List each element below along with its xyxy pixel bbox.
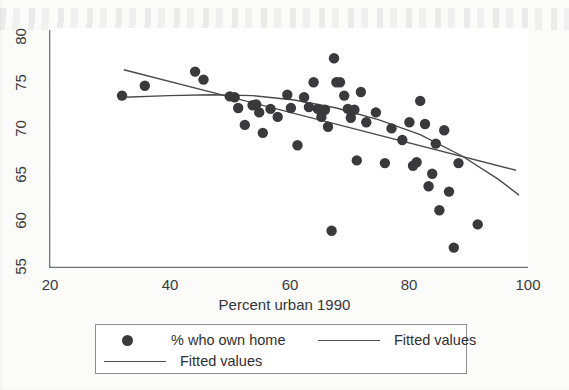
data-point	[427, 169, 437, 179]
data-point	[439, 125, 449, 135]
x-tick-label-20: 20	[37, 276, 63, 293]
data-point	[371, 107, 381, 117]
data-point	[361, 117, 371, 127]
data-point	[411, 157, 421, 167]
legend-entry-fitted-quadratic: Fitted values	[104, 350, 262, 372]
data-point	[254, 107, 264, 117]
y-tick-label-60: 60	[12, 208, 29, 234]
data-point	[273, 112, 283, 122]
data-point	[320, 105, 330, 115]
data-point	[240, 120, 250, 130]
y-tick-label-80: 80	[12, 24, 29, 50]
data-point	[286, 103, 296, 113]
data-point	[444, 186, 454, 196]
y-tick-label-65: 65	[12, 162, 29, 188]
data-point	[335, 77, 345, 87]
scan-artifact-band	[0, 8, 569, 30]
data-point	[352, 155, 362, 165]
data-point	[326, 226, 336, 236]
data-point	[229, 92, 239, 102]
legend-label-fitted-quadratic: Fitted values	[180, 353, 262, 369]
data-point	[282, 90, 292, 100]
data-point	[473, 219, 483, 229]
y-tick-label-55: 55	[12, 254, 29, 280]
legend-entry-fitted-linear: Fitted values	[318, 329, 476, 351]
data-point	[339, 90, 349, 100]
data-point	[453, 158, 463, 168]
legend-label-fitted-linear: Fitted values	[394, 332, 476, 348]
y-tick-label-70: 70	[12, 116, 29, 142]
legend-label-own-home: % who own home	[171, 332, 285, 348]
data-point	[265, 104, 275, 114]
data-point	[386, 123, 396, 133]
data-point	[423, 181, 433, 191]
data-point	[258, 128, 268, 138]
legend-entry-own-home: % who own home	[122, 329, 285, 351]
data-point	[397, 135, 407, 145]
data-point	[292, 140, 302, 150]
data-point	[323, 122, 333, 132]
y-tick-label-75: 75	[12, 70, 29, 96]
scatter-plot-svg	[49, 28, 528, 268]
chart-page: 80 75 70 65 60 55 20 40 60 80 100 Percen…	[0, 0, 569, 390]
data-point	[356, 87, 366, 97]
data-point	[434, 205, 444, 215]
data-point	[329, 53, 339, 63]
x-tick-label-60: 60	[277, 276, 303, 293]
legend-line-marker-icon	[318, 340, 380, 341]
data-point	[190, 66, 200, 76]
data-point	[349, 105, 359, 115]
chart-legend: % who own home Fitted values Fitted valu…	[95, 324, 467, 374]
plot-area	[49, 28, 528, 268]
legend-line-marker-icon-2	[104, 361, 166, 362]
x-axis-title: Percent urban 1990	[0, 296, 569, 313]
data-point	[431, 138, 441, 148]
data-point	[299, 92, 309, 102]
data-point	[308, 77, 318, 87]
data-point	[449, 242, 459, 252]
data-point	[304, 102, 314, 112]
data-point	[404, 117, 414, 127]
data-point	[140, 81, 150, 91]
x-tick-label-40: 40	[157, 276, 183, 293]
data-point	[198, 74, 208, 84]
data-point	[415, 96, 425, 106]
data-point	[380, 158, 390, 168]
x-tick-label-100: 100	[511, 276, 545, 293]
legend-dot-marker-icon	[122, 335, 133, 346]
data-point	[233, 103, 243, 113]
x-tick-label-80: 80	[396, 276, 422, 293]
data-point	[117, 90, 127, 100]
data-point	[420, 119, 430, 129]
